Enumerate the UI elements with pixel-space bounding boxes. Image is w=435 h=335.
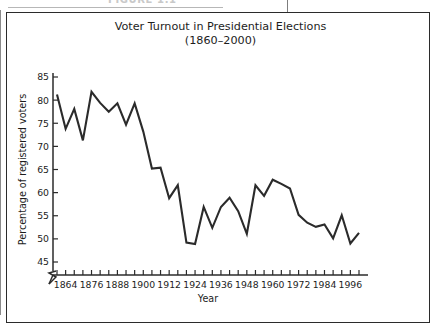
y-tick-label: 70 [37,141,49,152]
y-tick-label: 55 [37,210,49,221]
x-tick-label: 1972 [287,279,311,290]
x-tick-label: 1888 [106,279,130,290]
figure-page: FIGURE 1.1 Voter Turnout in Presidential… [0,0,435,335]
x-tick-label: 1864 [54,279,78,290]
y-axis-title: Percentage of registered voters [17,94,28,245]
x-tick-label: 1960 [261,279,285,290]
y-tick-label: 85 [37,71,49,82]
y-tick-label: 80 [37,95,49,106]
x-tick-label: 1936 [209,279,233,290]
y-tick-label: 75 [37,118,49,129]
y-tick-label: 50 [37,233,49,244]
x-axis-title: Year [197,293,218,304]
x-tick-label: 1948 [235,279,259,290]
x-tick-label: 1984 [313,279,337,290]
x-tick-label: 1900 [131,279,155,290]
x-tick-label: 1924 [183,279,207,290]
y-tick-label: 65 [37,164,49,175]
x-tick-label: 1876 [80,279,104,290]
x-tick-label: 1912 [157,279,181,290]
chart-plot: 4550556065707580851864187618881900191219… [0,0,435,335]
chart-generated-layer: 4550556065707580851864187618881900191219… [17,71,368,304]
x-tick-label: 1996 [339,279,363,290]
y-tick-label: 60 [37,187,49,198]
turnout-data-line [57,92,359,244]
y-tick-label: 45 [37,256,49,267]
